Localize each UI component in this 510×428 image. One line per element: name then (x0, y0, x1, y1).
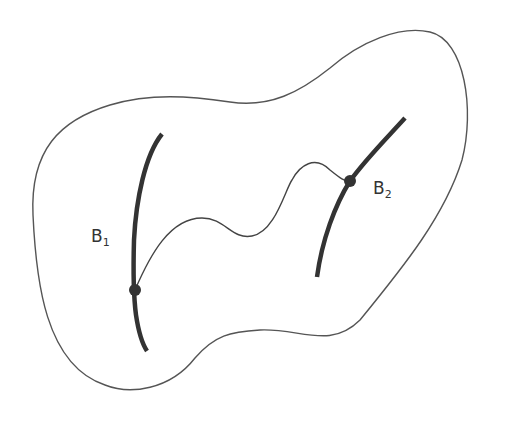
point-on-b2 (344, 175, 356, 187)
boundary-b2 (317, 118, 405, 277)
diagram-canvas (0, 0, 510, 428)
label-b1-subscript: 1 (103, 236, 110, 249)
point-on-b1 (129, 284, 141, 296)
label-b2-base: B (373, 178, 385, 198)
region-outline (33, 30, 468, 389)
label-b1-base: B (91, 226, 103, 246)
boundary-b1 (134, 134, 162, 351)
label-b2-subscript: 2 (385, 188, 392, 201)
label-b2: B2 (373, 180, 392, 200)
label-b1: B1 (91, 228, 110, 248)
